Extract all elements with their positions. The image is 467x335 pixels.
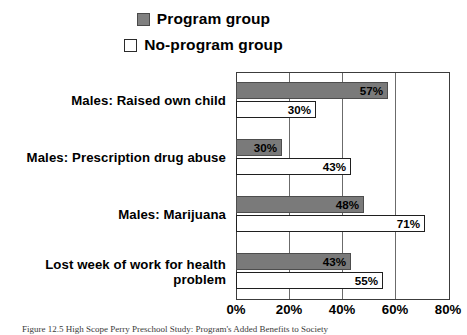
bar-value-label: 55% <box>355 274 382 287</box>
legend-label-no-program-group: No-program group <box>144 36 283 54</box>
bar-value-label: 30% <box>288 103 315 116</box>
chart-legend: Program group No-program group <box>0 6 467 58</box>
bars-zone: 30% 43% <box>236 129 450 186</box>
bar-program-group[interactable]: 30% <box>236 139 282 156</box>
bars-zone: 43% 55% <box>236 243 450 300</box>
bar-no-program-group[interactable]: 30% <box>236 101 316 118</box>
bar-no-program-group[interactable]: 43% <box>236 158 351 175</box>
bar-value-label: 43% <box>323 160 350 173</box>
chart-row-marijuana: Males: Marijuana 48% 71% <box>0 186 467 243</box>
category-label: Males: Prescription drug abuse <box>0 150 232 165</box>
x-tick-0: 0% <box>226 302 245 317</box>
filled-square-icon <box>137 13 150 26</box>
bar-value-label: 43% <box>323 255 350 268</box>
legend-label-program-group: Program group <box>157 10 270 28</box>
bar-value-label: 57% <box>360 84 387 97</box>
x-tick-20: 20% <box>276 302 302 317</box>
legend-item-no-program-group: No-program group <box>0 32 467 58</box>
figure-caption: Figure 12.5 High Scope Perry Preschool S… <box>22 324 452 335</box>
bars-zone: 48% 71% <box>236 186 450 243</box>
legend-item-program-group: Program group <box>0 6 467 32</box>
x-tick-40: 40% <box>329 302 355 317</box>
chart-row-raised-own-child: Males: Raised own child 57% 30% <box>0 72 467 129</box>
hollow-square-icon <box>124 39 137 52</box>
chart-row-lost-week-of-work: Lost week of work for health problem 43%… <box>0 243 467 300</box>
chart-row-prescription-drug-abuse: Males: Prescription drug abuse 30% 43% <box>0 129 467 186</box>
bar-program-group[interactable]: 43% <box>236 253 351 270</box>
bars-zone: 57% 30% <box>236 72 450 129</box>
category-label: Lost week of work for health problem <box>0 257 232 287</box>
chart-rows: Males: Raised own child 57% 30% Males: P… <box>0 72 467 300</box>
bar-value-label: 30% <box>254 141 281 154</box>
bar-no-program-group[interactable]: 71% <box>236 215 425 232</box>
bar-no-program-group[interactable]: 55% <box>236 272 383 289</box>
x-tick-60: 60% <box>382 302 408 317</box>
bar-program-group[interactable]: 48% <box>236 196 364 213</box>
category-label: Males: Raised own child <box>0 93 232 108</box>
bar-value-label: 48% <box>336 198 363 211</box>
x-tick-80: 80% <box>435 302 461 317</box>
category-label: Males: Marijuana <box>0 207 232 222</box>
bar-program-group[interactable]: 57% <box>236 82 388 99</box>
x-axis: 0% 20% 40% 60% 80% <box>236 302 450 320</box>
bar-value-label: 71% <box>397 217 424 230</box>
chart-figure: Program group No-program group Males: Ra… <box>0 0 467 335</box>
